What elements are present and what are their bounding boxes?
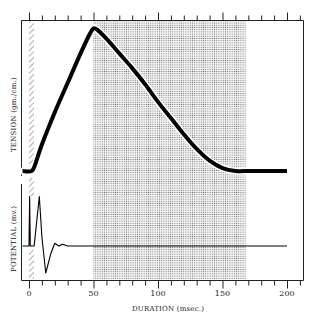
stimulus-hatch-top: [29, 21, 34, 171]
x-tick-label: 200: [279, 289, 294, 298]
x-tick-label: 100: [150, 289, 165, 298]
stimulus-hatch-bottom: [29, 178, 34, 196]
y-axis-label-tension: TENSION (gm./cm.): [10, 77, 18, 152]
x-tick-label: 50: [88, 289, 98, 298]
x-tick-labels: 050100150200: [26, 289, 294, 298]
x-axis-label: DURATION (msec.): [132, 305, 204, 313]
stimulus-hatch-bottom2: [29, 250, 34, 279]
chart: 050100150200 TENSION (gm./cm.) POTENTIAL…: [0, 0, 313, 320]
x-tick-label: 150: [215, 289, 230, 298]
y-axis-label-potential: POTENTIAL (mv.): [10, 206, 18, 272]
x-tick-label: 0: [26, 289, 31, 298]
stippled-region: [94, 21, 246, 279]
